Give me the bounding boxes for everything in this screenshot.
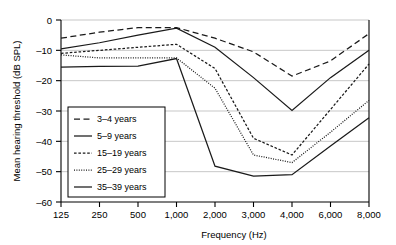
legend-label-5-9-years: 5–9 years — [97, 131, 137, 141]
y-tick-marks — [56, 20, 61, 202]
y-tick-label: 0 — [47, 15, 52, 26]
x-tick-labels: 125 250 500 1,000 2,000 3,000 4,000 6,00… — [53, 209, 381, 220]
y-tick-labels: 0 –10 –20 –30 –40 –50 –60 — [36, 15, 52, 208]
y-tick-label: –40 — [36, 136, 52, 147]
x-tick-marks — [61, 202, 369, 207]
legend-label-15-19-years: 15–19 years — [97, 148, 147, 158]
x-tick-label: 250 — [92, 209, 108, 220]
x-tick-label: 500 — [130, 209, 146, 220]
y-tick-label: –20 — [36, 75, 52, 86]
x-tick-label: 1,000 — [165, 209, 189, 220]
hearing-threshold-line-chart: 0 –10 –20 –30 –40 –50 –60 125 250 500 1,… — [0, 0, 396, 245]
y-tick-label: –50 — [36, 166, 52, 177]
y-axis-title: Mean hearing threshold (dB SPL) — [11, 41, 22, 182]
y-tick-label: –60 — [36, 197, 52, 208]
x-tick-label: 4,000 — [280, 209, 304, 220]
legend-label-35-39-years: 35–39 years — [97, 182, 147, 192]
x-tick-label: 125 — [53, 209, 69, 220]
y-tick-label: –10 — [36, 45, 52, 56]
chart-figure: 0 –10 –20 –30 –40 –50 –60 125 250 500 1,… — [0, 0, 396, 245]
x-tick-label: 3,000 — [242, 209, 266, 220]
legend-label-3-4-years: 3–4 years — [97, 114, 137, 124]
legend-label-25-29-years: 25–29 years — [97, 165, 147, 175]
chart-legend: 3–4 years 5–9 years 15–19 years 25–29 ye… — [68, 107, 165, 197]
x-tick-label: 2,000 — [203, 209, 227, 220]
x-axis-title: Frequency (Hz) — [201, 229, 266, 240]
x-tick-label: 6,000 — [319, 209, 343, 220]
y-tick-label: –30 — [36, 106, 52, 117]
x-tick-label: 8,000 — [357, 209, 381, 220]
